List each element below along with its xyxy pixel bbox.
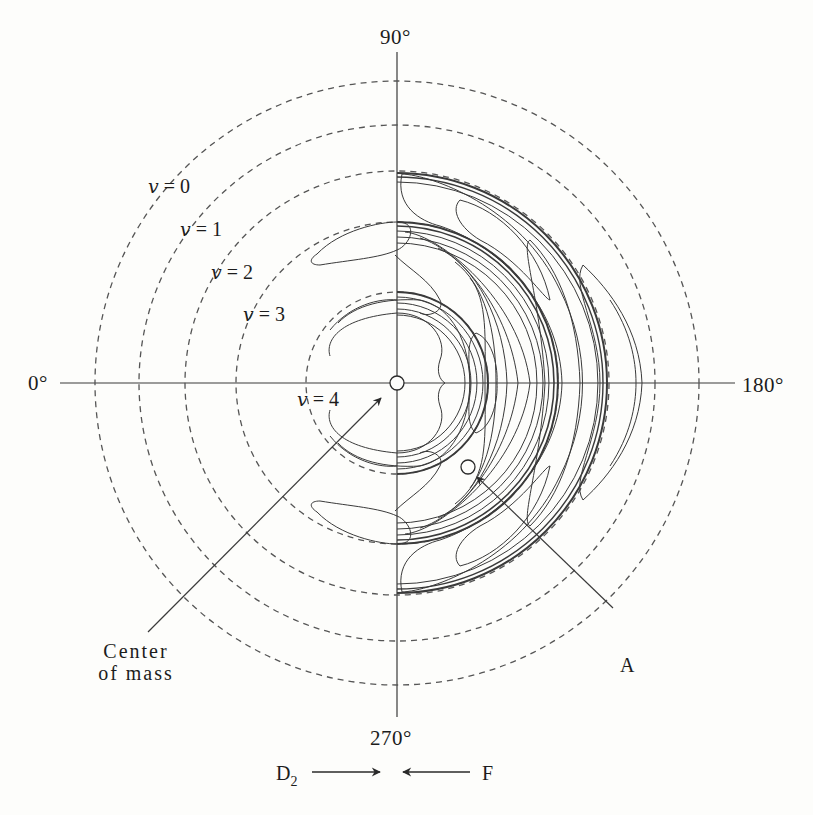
reactant-d2-label: D2 <box>276 762 297 787</box>
angle-label-0: 0° <box>28 373 48 394</box>
level-label-v0: v = 0 <box>148 176 190 196</box>
level-label-v1: v = 1 <box>180 219 222 239</box>
point-a-marker <box>461 460 475 474</box>
angle-label-180: 180° <box>742 375 784 396</box>
reactant-f-label: F <box>482 762 495 784</box>
angle-label-90: 90° <box>380 27 411 48</box>
center-of-mass-marker <box>390 376 404 390</box>
level-label-v4: v = 4 <box>297 389 339 409</box>
contour-diagram <box>0 0 813 815</box>
point-a-label: A <box>620 654 636 676</box>
point-a-leader <box>477 477 613 608</box>
level-label-v2: v = 2 <box>211 262 253 282</box>
level-label-v3: v = 3 <box>243 304 285 324</box>
center-of-mass-leader <box>148 398 381 632</box>
leader-lines <box>148 398 613 632</box>
center-of-mass-label: Center of mass <box>86 640 186 684</box>
angle-label-270: 270° <box>370 728 412 749</box>
